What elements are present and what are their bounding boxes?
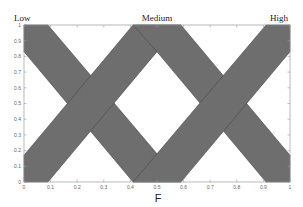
y-tick-label: 0.1 — [14, 163, 21, 169]
y-tick-label: 0.4 — [14, 116, 21, 122]
x-tick-label: 0.8 — [233, 184, 240, 190]
label-high: High — [270, 13, 289, 23]
x-tick-label: 0.6 — [180, 184, 187, 190]
x-tick-label: 0 — [23, 184, 26, 190]
x-tick-label: 0.2 — [74, 184, 81, 190]
label-low: Low — [14, 13, 31, 23]
x-tick-label: 0.3 — [100, 184, 107, 190]
label-medium: Medium — [142, 13, 173, 23]
y-tick-label: 0.7 — [14, 69, 21, 75]
fuzzy-bands — [24, 25, 290, 182]
y-tick-label: 0.6 — [14, 85, 21, 91]
membership-function-chart: 00.10.20.30.40.50.60.70.80.9100.10.20.30… — [0, 0, 303, 207]
x-axis-label: F — [155, 192, 162, 204]
y-tick-label: 0.5 — [14, 100, 21, 106]
x-tick-label: 1 — [289, 184, 292, 190]
x-tick-label: 0.4 — [127, 184, 134, 190]
y-tick-label: 0.9 — [14, 38, 21, 44]
x-tick-label: 0.5 — [154, 184, 161, 190]
x-tick-label: 0.9 — [260, 184, 267, 190]
y-tick-label: 0.3 — [14, 132, 21, 138]
x-tick-label: 0.1 — [47, 184, 54, 190]
x-tick-label: 0.7 — [207, 184, 214, 190]
y-tick-label: 0.8 — [14, 53, 21, 59]
y-tick-label: 0.2 — [14, 147, 21, 153]
y-tick-label: 0 — [18, 179, 21, 185]
